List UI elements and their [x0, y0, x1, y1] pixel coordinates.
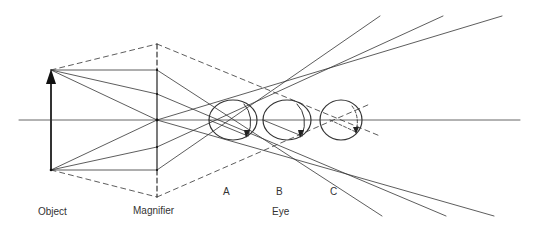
- magnifier-label: Magnifier: [133, 205, 174, 216]
- parallel-rays-down: [157, 70, 494, 216]
- eye-label: Eye: [272, 206, 289, 217]
- ray-diagram: [0, 0, 535, 237]
- eye-b-label: B: [276, 186, 283, 197]
- object-label: Object: [38, 206, 67, 217]
- parallel-rays-up: [157, 16, 502, 170]
- eye-a-label: A: [223, 186, 230, 197]
- eye-c-label: C: [330, 186, 337, 197]
